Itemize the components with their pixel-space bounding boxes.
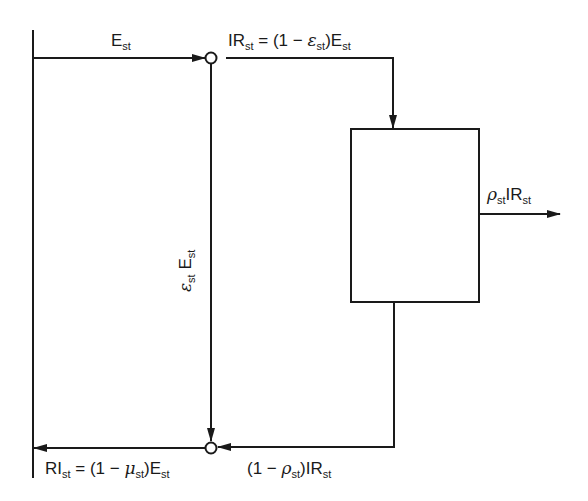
label-sub: st xyxy=(185,250,197,259)
rho-symbol: ρ xyxy=(487,184,497,204)
label-sub: st xyxy=(136,468,145,480)
irrigation-return-label: IRst = (1 − εst)Est xyxy=(228,32,351,52)
process-box xyxy=(351,129,479,302)
label-base: IR xyxy=(506,185,523,204)
return-loop-label: (1 − ρst)IRst xyxy=(247,460,331,480)
label-sub: st xyxy=(161,468,170,480)
label-sub: st xyxy=(323,468,332,480)
top-junction-node xyxy=(206,53,217,64)
label-sub: st xyxy=(317,40,326,52)
label-sub: st xyxy=(497,194,506,206)
irrigation-arrow xyxy=(226,58,393,128)
label-close: )IR xyxy=(300,459,323,478)
bottom-junction-node xyxy=(206,443,217,454)
label-open: (1 − xyxy=(247,459,282,478)
label-sub: st xyxy=(342,40,351,52)
label-close: )E xyxy=(325,31,342,50)
label-sub: st xyxy=(523,194,532,206)
input-flow-label: Est xyxy=(111,32,131,52)
diagram-lines xyxy=(0,0,588,501)
label-sub: st xyxy=(122,40,131,52)
flow-diagram: Est IRst = (1 − εst)Est εst Est ρstIRst … xyxy=(0,0,588,501)
rho-symbol: ρ xyxy=(282,458,292,478)
diverted-flow-label: εst Est xyxy=(177,250,197,292)
output-label: ρstIRst xyxy=(487,186,531,206)
label-base: RI xyxy=(45,459,62,478)
label-equals: = (1 − xyxy=(75,459,124,478)
label-base: E xyxy=(111,31,122,50)
label-close: )E xyxy=(144,459,161,478)
epsilon-symbol: ε xyxy=(175,283,195,292)
label-sub: st xyxy=(292,468,301,480)
epsilon-symbol: ε xyxy=(307,30,316,50)
return-loop-arrow xyxy=(218,302,394,447)
label-sub: st xyxy=(62,468,71,480)
label-base: IR xyxy=(228,31,245,50)
label-equals: = (1 − xyxy=(258,31,307,50)
mu-symbol: μ xyxy=(124,458,135,478)
label-sub: st xyxy=(185,274,197,283)
label-base: E xyxy=(176,258,195,269)
label-sub: st xyxy=(245,40,254,52)
return-inflow-label: RIst = (1 − μst)Est xyxy=(45,460,170,480)
